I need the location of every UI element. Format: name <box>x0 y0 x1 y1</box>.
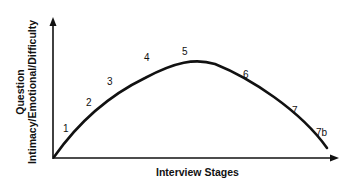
stage-label-4: 4 <box>144 52 150 63</box>
stage-label-7b: 7b <box>316 127 328 138</box>
intimacy-curve <box>54 61 327 157</box>
stage-label-2: 2 <box>86 97 92 108</box>
y-axis-title-line1: Question <box>14 69 26 115</box>
x-axis-arrow-icon <box>330 155 339 162</box>
stage-label-1: 1 <box>63 123 69 134</box>
y-axis-arrow-icon <box>50 17 57 26</box>
y-axis-title-line2: Intimacy/Emotional/Difficulty <box>26 20 38 164</box>
x-axis-title: Interview Stages <box>156 166 239 178</box>
stage-label-3: 3 <box>107 76 113 87</box>
stage-label-7: 7 <box>292 105 298 116</box>
stage-label-5: 5 <box>182 46 188 57</box>
stage-curve-diagram: 1 2 3 4 5 6 7 7b Interview Stages Questi… <box>0 0 349 188</box>
stage-label-6: 6 <box>243 69 249 80</box>
